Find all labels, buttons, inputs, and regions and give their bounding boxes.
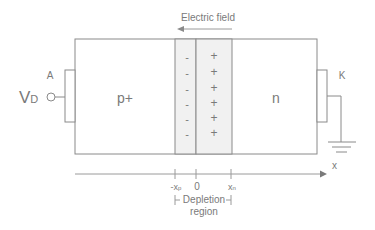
- tick-sub: n: [233, 185, 236, 191]
- negative-charge: -: [185, 83, 189, 95]
- arrow-left-icon: [177, 26, 184, 32]
- voltage-subscript: D: [30, 93, 38, 105]
- arrow-right-icon: [320, 171, 327, 178]
- cathode-terminal: K: [317, 70, 356, 152]
- positive-charges: + + + + + +: [210, 49, 217, 140]
- cathode-label: K: [339, 70, 346, 81]
- positive-charge: +: [210, 65, 217, 79]
- depletion-label-line1: Depletion: [183, 194, 225, 205]
- voltage-symbol: V: [19, 88, 31, 107]
- positive-charge: +: [210, 126, 217, 140]
- cathode-wire: [327, 96, 341, 142]
- negative-charge: -: [185, 98, 189, 110]
- negative-charge: -: [185, 67, 189, 79]
- x-axis: x -xp 0 xn: [75, 160, 337, 192]
- electric-field-indicator: Electric field: [177, 12, 235, 32]
- tick-sub: p: [178, 185, 182, 191]
- positive-charge: +: [210, 81, 217, 95]
- negative-charge: -: [185, 113, 189, 125]
- x-axis-label: x: [332, 160, 337, 171]
- tick-label-zero: 0: [194, 181, 200, 192]
- positive-charge: +: [210, 111, 217, 125]
- negative-charge: -: [185, 51, 189, 63]
- pn-junction-diagram: Electric field - - - - - - + + + + + + p…: [0, 0, 375, 230]
- depletion-region-bracket: Depletion region: [175, 194, 231, 217]
- anode-contact: [65, 70, 75, 122]
- tick-label-xn: xn: [228, 182, 236, 192]
- cathode-contact: [317, 70, 327, 122]
- depletion-label-line2: region: [190, 206, 218, 217]
- n-region-label: n: [272, 90, 280, 106]
- negative-charge: -: [185, 128, 189, 140]
- anode-terminal: A VD: [19, 70, 75, 122]
- terminal-circle-icon: [47, 93, 55, 101]
- electric-field-label: Electric field: [181, 12, 235, 23]
- anode-label: A: [47, 70, 54, 81]
- ground-icon: [328, 142, 356, 152]
- positive-charge: +: [210, 49, 217, 63]
- positive-charge: +: [210, 96, 217, 110]
- p-region-label: p+: [117, 90, 133, 106]
- tick-label-neg-xp: -xp: [171, 182, 183, 192]
- voltage-label: VD: [19, 88, 38, 107]
